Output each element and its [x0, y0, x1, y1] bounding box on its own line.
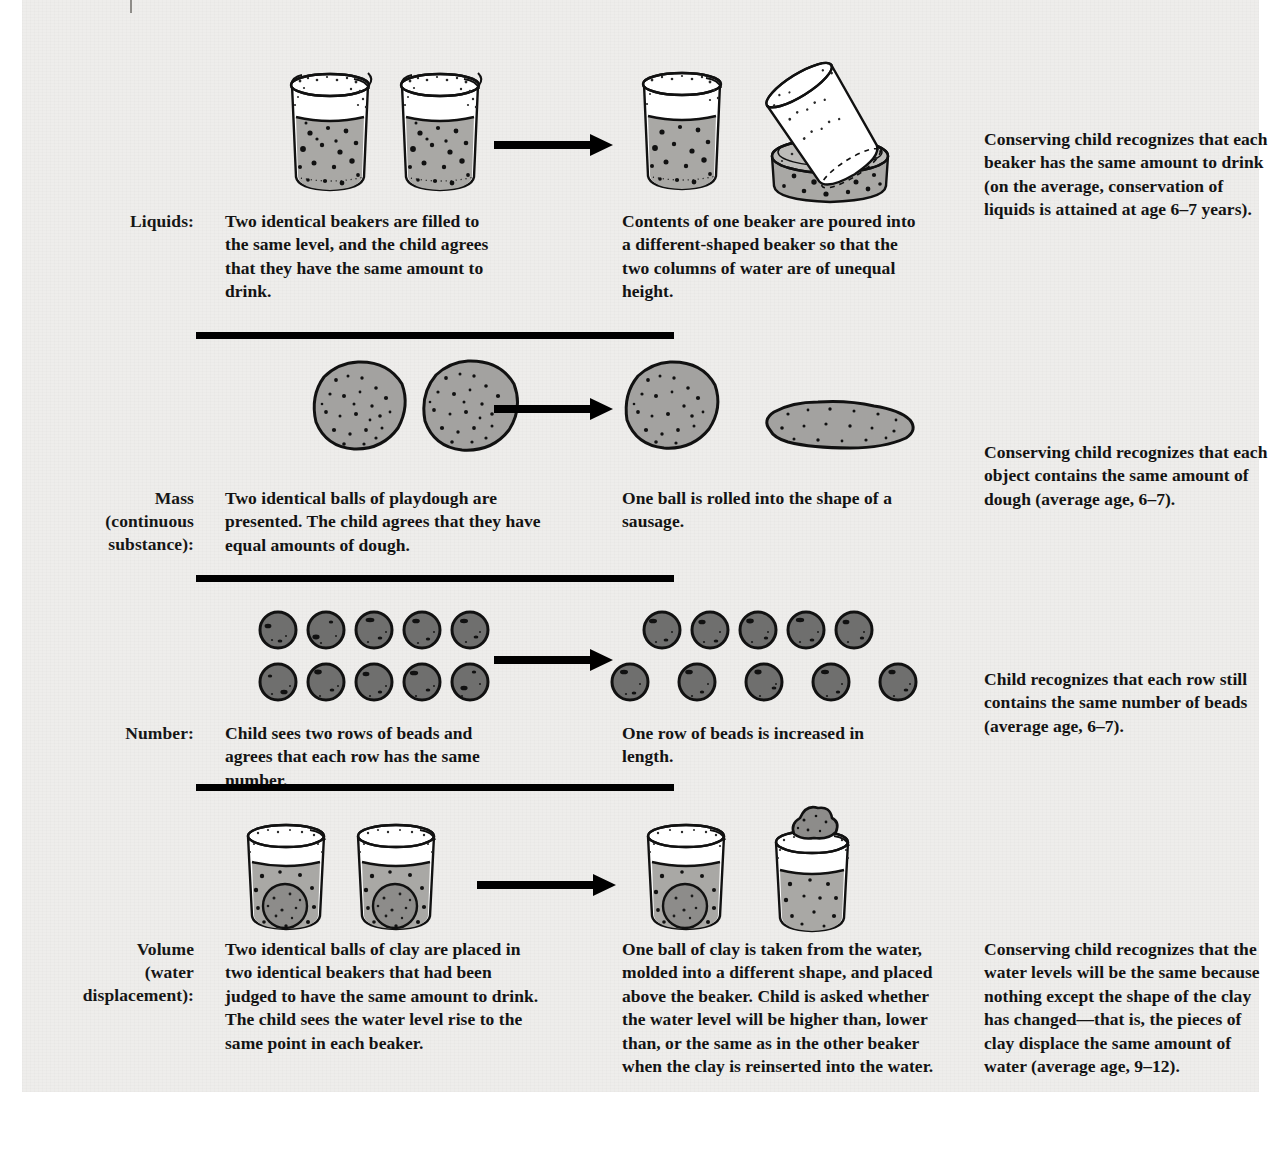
row-divider-2 [196, 575, 674, 582]
row-liquids-middle-text: Contents of one beaker are poured into a… [622, 210, 922, 304]
arrow-row-mass [494, 396, 614, 422]
art-beaker-clay-in-and-above [630, 800, 880, 940]
row-label-volume-line3: displacement): [44, 984, 194, 1007]
figure-panel: Liquids: Two identical beakers are fille… [22, 0, 1259, 1092]
row-label-mass: Mass (continuous substance): [56, 487, 194, 556]
arrow-row-number [494, 647, 614, 673]
row-volume-middle-text: One ball of clay is taken from the water… [622, 938, 940, 1078]
art-ball-and-sausage [622, 358, 922, 463]
row-divider-1 [196, 332, 674, 339]
row-number-left-text: Child sees two rows of beads and agrees … [225, 722, 511, 792]
row-mass-left-text: Two identical balls of playdough are pre… [225, 487, 545, 557]
art-beaker-poured-into-dish [622, 48, 902, 208]
row-number-middle-text: One row of beads is increased in length. [622, 722, 914, 769]
row-mass-right-text: Conserving child recognizes that each ob… [984, 441, 1272, 511]
art-two-beakers-with-clay-balls [230, 812, 450, 940]
row-liquids-left-text: Two identical beakers are filled to the … [225, 210, 493, 304]
row-label-number: Number: [82, 722, 194, 745]
row-label-volume: Volume (water displacement): [44, 938, 194, 1007]
row-label-mass-line2: (continuous [56, 510, 194, 533]
row-label-mass-line1: Mass [56, 487, 194, 510]
row-label-liquids-line1: Liquids: [82, 210, 194, 233]
row-label-mass-line3: substance): [56, 533, 194, 556]
row-label-volume-line2: (water [44, 961, 194, 984]
row-liquids-right-text: Conserving child recognizes that each be… [984, 128, 1272, 222]
row-label-liquids: Liquids: [82, 210, 194, 233]
row-mass-middle-text: One ball is rolled into the shape of a s… [622, 487, 922, 534]
art-two-identical-beakers [270, 55, 490, 205]
row-volume-left-text: Two identical balls of clay are placed i… [225, 938, 543, 1055]
row-divider-3 [196, 784, 674, 791]
row-label-number-line1: Number: [82, 722, 194, 745]
top-crop-tick [130, 0, 132, 13]
arrow-row-liquids [494, 132, 614, 158]
row-label-volume-line1: Volume [44, 938, 194, 961]
arrow-row-volume [477, 872, 617, 898]
art-two-rows-one-spread [622, 610, 952, 710]
art-two-equal-rows-of-beads [258, 610, 498, 710]
row-volume-right-text: Conserving child recognizes that the wat… [984, 938, 1274, 1078]
row-number-right-text: Child recognizes that each row still con… [984, 668, 1272, 738]
